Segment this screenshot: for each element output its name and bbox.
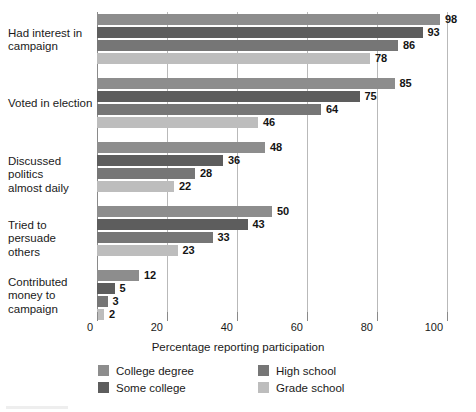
tick-mark [167,312,168,321]
legend-swatch-icon [258,365,269,376]
bar-value-label: 75 [365,89,377,103]
tick-label: 20 [151,321,167,333]
x-axis-title: Percentage reporting participation [0,341,476,353]
bar[interactable] [97,91,360,102]
bar-value-label: 43 [253,217,265,231]
legend-label: Some college [116,382,186,394]
bar[interactable] [97,181,174,192]
bar-value-label: 28 [200,166,212,180]
bar[interactable] [97,219,248,230]
category-label: Tried to persuade others [8,219,94,260]
bar-value-label: 22 [179,179,191,193]
bar-value-label: 46 [263,115,275,129]
legend-swatch-icon [98,365,109,376]
legend-swatch-icon [258,382,269,393]
tick-label: 80 [361,321,377,333]
bar-value-label: 50 [277,204,289,218]
legend-label: High school [276,365,336,377]
page-artifact [6,406,68,409]
bar[interactable] [97,142,265,153]
tick-mark [377,312,378,321]
category-label: Voted in election [8,97,94,111]
tick-label: 0 [87,321,97,333]
bar[interactable] [97,14,440,25]
bar-value-label: 98 [445,12,457,26]
bar-value-label: 78 [375,51,387,65]
bar[interactable] [97,117,258,128]
tick-mark [237,312,238,321]
bar-chart: 9893867885756446483628225043332312532 Ha… [0,0,476,412]
bar-value-label: 48 [270,140,282,154]
bar-value-label: 36 [228,153,240,167]
bar[interactable] [97,168,195,179]
bar-value-label: 5 [120,281,126,295]
gridline-100 [447,12,448,312]
bar-value-label: 3 [113,294,119,308]
category-label: Contributed money to campaign [8,276,94,317]
bar-value-label: 93 [428,25,440,39]
bar-value-label: 85 [400,76,412,90]
tick-mark [97,312,98,321]
tick-label: 100 [425,321,447,333]
legend-item[interactable]: Grade school [258,380,344,395]
bar[interactable] [97,206,272,217]
bar-group: 85756446 [97,78,447,130]
tick-mark [307,312,308,321]
legend-item[interactable]: High school [258,363,336,378]
plot-area: 9893867885756446483628225043332312532 [97,12,447,312]
bar[interactable] [97,270,139,281]
bar[interactable] [97,232,213,243]
bar-group: 48362822 [97,142,447,194]
bar-value-label: 23 [183,243,195,257]
bar-value-label: 64 [326,102,338,116]
bar[interactable] [97,296,108,307]
bar-value-label: 12 [144,268,156,282]
bar-group: 98938678 [97,14,447,66]
bar-value-label: 33 [218,230,230,244]
bar[interactable] [97,27,423,38]
legend-item[interactable]: College degree [98,363,194,378]
category-label: Discussed politics almost daily [8,155,94,196]
x-axis: 020406080100 [97,312,447,334]
bar-group: 50433323 [97,206,447,258]
tick-label: 40 [221,321,237,333]
bar[interactable] [97,104,321,115]
bar[interactable] [97,245,178,256]
bar[interactable] [97,283,115,294]
category-label: Had interest in campaign [8,27,94,54]
bar[interactable] [97,78,395,89]
bar[interactable] [97,40,398,51]
legend-label: Grade school [276,382,344,394]
legend: College degreeSome collegeHigh schoolGra… [98,363,398,397]
legend-label: College degree [116,365,194,377]
legend-item[interactable]: Some college [98,380,186,395]
tick-mark [447,312,448,321]
bar[interactable] [97,53,370,64]
tick-label: 60 [291,321,307,333]
legend-swatch-icon [98,382,109,393]
bar[interactable] [97,155,223,166]
bar-value-label: 86 [403,38,415,52]
